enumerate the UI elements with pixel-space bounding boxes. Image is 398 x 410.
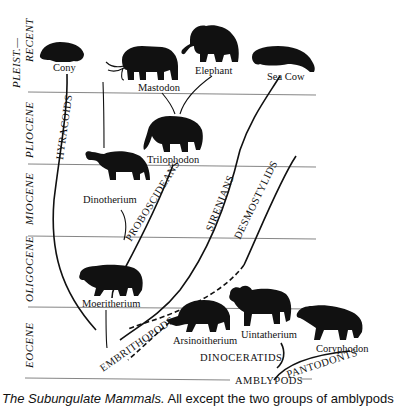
epoch-recent: RECENT	[23, 18, 35, 63]
label-amblypods: AMBLYPODS	[235, 375, 303, 386]
label-elephant: Elephant	[195, 65, 232, 76]
caption-text: All except the two groups of amblypods	[165, 391, 394, 406]
caption-title: The Subungulate Mammals.	[2, 391, 165, 406]
trilophodon-silhouette	[143, 116, 202, 152]
cony-silhouette	[40, 42, 84, 62]
moeritherium-silhouette	[79, 265, 143, 296]
label-dinotherium: Dinotherium	[83, 194, 137, 205]
coryphodon-silhouette	[297, 305, 363, 340]
label-embrithopods: EMBRITHOPODS	[98, 314, 176, 373]
label-dinoceratids: DINOCERATIDS	[200, 352, 282, 363]
label-uintatherium: Uintatherium	[241, 329, 297, 340]
baseline-bottom	[25, 378, 230, 380]
branch-elephant-trilophodon	[180, 76, 212, 114]
label-arsinoitherium: Arsinoitherium	[173, 335, 237, 346]
epoch-labels: PLEIST.— RECENT PLIOCENE MIOCENE OLIGOCE…	[10, 18, 35, 369]
epoch-eocene: EOCENE	[23, 322, 35, 369]
epoch-pleist: PLEIST.—	[10, 37, 22, 89]
label-cony: Cony	[53, 62, 77, 73]
figure-caption: The Subungulate Mammals. All except the …	[2, 391, 398, 406]
sea-cow-silhouette	[252, 46, 315, 72]
epoch-pliocene: PLIOCENE	[23, 101, 35, 159]
label-sirenians: SIRENIANS	[204, 174, 236, 233]
label-hyracoids: HYRACOIDS	[54, 94, 74, 161]
epoch-oligocene: OLIGOCENE	[23, 236, 35, 302]
label-mastodon: Mastodon	[138, 82, 181, 93]
arsinoitherium-silhouette	[166, 300, 230, 332]
epoch-miocene: MIOCENE	[23, 173, 35, 226]
mastodon-silhouette	[106, 46, 178, 80]
label-moeritherium: Moeritherium	[82, 298, 140, 309]
uintatherium-silhouette	[229, 286, 291, 326]
branch-moeritherium-stem	[106, 310, 107, 348]
branch-mastodon-stem	[103, 82, 104, 148]
dinotherium-silhouette	[85, 151, 150, 180]
label-sea-cow: Sea Cow	[267, 71, 305, 82]
branch-mastodon-trilophodon	[162, 93, 175, 114]
boundary-miocene-oligocene	[28, 236, 316, 239]
elephant-silhouette	[181, 25, 238, 62]
